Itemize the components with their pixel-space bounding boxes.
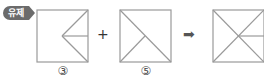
figure-2-label: ⑤: [136, 64, 156, 78]
plus-sign: +: [97, 26, 109, 42]
arrow-right-icon: ➡: [183, 26, 195, 42]
figure-1-label: ③: [53, 64, 73, 78]
figure-diagram: [0, 0, 264, 83]
